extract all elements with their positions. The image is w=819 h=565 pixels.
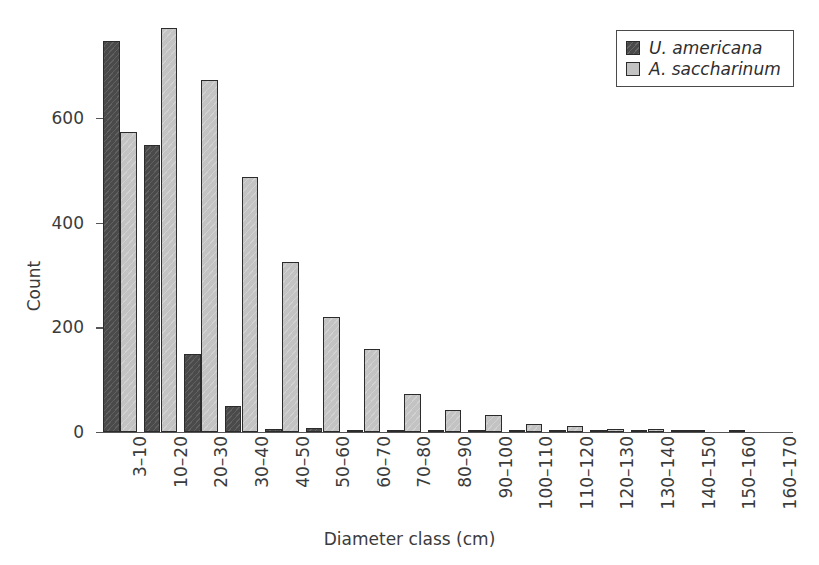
y-axis-tick [96, 223, 103, 224]
legend-item: A. saccharinum [626, 58, 781, 79]
x-axis-tick-label: 20–30 [211, 436, 231, 488]
bar-u-americana [509, 430, 526, 432]
bar-a-saccharinum [567, 426, 584, 432]
bar-a-saccharinum [242, 177, 259, 432]
x-axis-tick-label: 80–90 [455, 436, 475, 488]
bar-group [144, 40, 185, 432]
bar-group [712, 40, 753, 432]
y-axis-title: Count [24, 216, 44, 356]
bar-group [671, 40, 712, 432]
x-axis-tick-label: 60–70 [374, 436, 394, 488]
x-axis-tick-label: 110–120 [577, 436, 597, 509]
legend-label: A. saccharinum [649, 59, 781, 79]
x-axis-tick-label: 10–20 [171, 436, 191, 488]
legend-label: U. americana [649, 38, 762, 58]
bar-a-saccharinum [526, 424, 543, 432]
x-axis-tick-label: 70–80 [414, 436, 434, 488]
bar-group [752, 40, 793, 432]
x-axis-tick-label: 150–160 [739, 436, 759, 509]
bar-group [103, 40, 144, 432]
bar-a-saccharinum [729, 430, 746, 432]
bar-u-americana [306, 428, 323, 432]
bar-u-americana [144, 145, 161, 432]
x-axis-tick-label: 130–140 [658, 436, 678, 509]
bar-u-americana [631, 430, 648, 432]
legend-item: U. americana [626, 37, 781, 58]
bar-a-saccharinum [323, 317, 340, 432]
x-axis-line [103, 432, 793, 433]
y-axis-tick-label: 600 [0, 108, 84, 128]
plot-area [103, 40, 793, 432]
bar-group [347, 40, 388, 432]
bar-a-saccharinum [485, 415, 502, 432]
bar-group [265, 40, 306, 432]
bar-u-americana [225, 406, 242, 432]
bar-group [306, 40, 347, 432]
x-axis-tick-label: 120–130 [617, 436, 637, 509]
x-axis-tick-label: 140–150 [699, 436, 719, 509]
bar-u-americana [184, 354, 201, 433]
bar-group [549, 40, 590, 432]
bar-a-saccharinum [161, 28, 178, 432]
bar-u-americana [671, 430, 688, 432]
bar-group [225, 40, 266, 432]
bar-a-saccharinum [120, 132, 137, 432]
bar-u-americana [347, 430, 364, 432]
bar-a-saccharinum [607, 429, 624, 432]
bar-a-saccharinum [445, 410, 462, 432]
bar-group [590, 40, 631, 432]
bar-group [468, 40, 509, 432]
bar-group [387, 40, 428, 432]
bar-group [428, 40, 469, 432]
bar-a-saccharinum [282, 262, 299, 432]
bar-a-saccharinum [648, 429, 665, 432]
y-axis-tick [96, 327, 103, 328]
x-axis-tick-label: 50–60 [333, 436, 353, 488]
bar-u-americana [387, 430, 404, 432]
x-axis-tick-labels: 3–1010–2020–3030–4040–5050–6060–7070–808… [103, 436, 793, 531]
bar-a-saccharinum [201, 80, 218, 432]
y-axis-tick [96, 432, 103, 433]
x-axis-tick-label: 100–110 [536, 436, 556, 509]
bar-u-americana [428, 430, 445, 432]
y-axis-tick-label: 0 [0, 422, 84, 442]
y-axis-tick [96, 118, 103, 119]
legend-swatch-icon [626, 41, 640, 55]
x-axis-title: Diameter class (cm) [0, 529, 819, 549]
bar-chart: 0200400600 Count 3–1010–2020–3030–4040–5… [0, 0, 819, 565]
legend-swatch-icon [626, 62, 640, 76]
bar-u-americana [103, 41, 120, 432]
bar-u-americana [549, 430, 566, 432]
bar-a-saccharinum [364, 349, 381, 432]
x-axis-tick-label: 40–50 [293, 436, 313, 488]
bar-u-americana [590, 430, 607, 432]
x-axis-tick-label: 3–10 [130, 436, 150, 477]
bar-u-americana [265, 429, 282, 432]
bar-group [509, 40, 550, 432]
bar-group [631, 40, 672, 432]
x-axis-tick-label: 160–170 [780, 436, 800, 509]
legend: U. americanaA. saccharinum [616, 30, 794, 87]
bar-a-saccharinum [404, 394, 421, 432]
bar-a-saccharinum [688, 430, 705, 432]
bar-group [184, 40, 225, 432]
x-axis-tick-label: 90–100 [496, 436, 516, 499]
x-axis-tick-label: 30–40 [252, 436, 272, 488]
bar-u-americana [468, 430, 485, 432]
